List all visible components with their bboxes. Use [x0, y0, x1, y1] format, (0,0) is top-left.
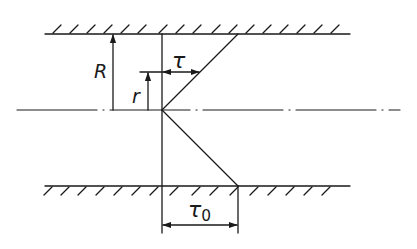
bottom-wall	[44, 186, 350, 195]
stress-profile-lower	[162, 110, 238, 186]
label-r: r	[132, 87, 140, 106]
top-wall-hatching	[53, 25, 339, 33]
top-wall	[45, 25, 350, 34]
label-R: R	[94, 62, 107, 81]
label-tau0-subscript: 0	[201, 207, 211, 225]
label-tau0-symbol: τ	[188, 197, 201, 222]
label-tau0: τ0	[188, 199, 211, 224]
label-tau: τ	[172, 50, 185, 72]
bottom-wall-hatching	[44, 187, 330, 195]
